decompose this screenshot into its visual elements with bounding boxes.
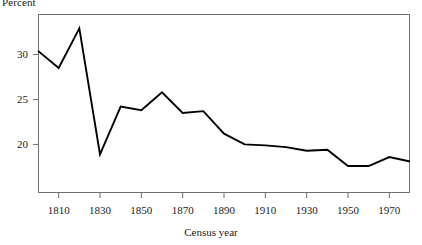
- x-tick-label: 1950: [328, 205, 368, 216]
- x-tick-label: 1810: [39, 205, 79, 216]
- x-tick-label: 1970: [369, 205, 409, 216]
- chart-figure: Percent 202530 1810183018501870189019101…: [0, 0, 422, 245]
- y-axis-label: Percent: [2, 0, 36, 8]
- x-axis-label: Census year: [0, 226, 422, 238]
- x-tick-label: 1830: [80, 205, 120, 216]
- x-tick-label: 1870: [163, 205, 203, 216]
- x-tick-label: 1910: [245, 205, 285, 216]
- y-tick-label: 25: [2, 94, 28, 105]
- plot-area: [38, 14, 410, 193]
- x-tick-label: 1930: [287, 205, 327, 216]
- x-tick-label: 1850: [121, 205, 161, 216]
- x-tick-label: 1890: [204, 205, 244, 216]
- y-tick-label: 20: [2, 139, 28, 150]
- y-tick-label: 30: [2, 49, 28, 60]
